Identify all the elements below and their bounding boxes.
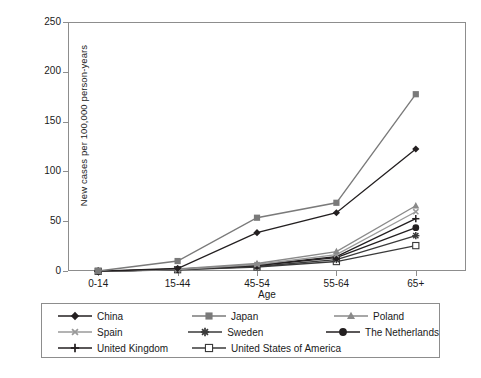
legend-symbol <box>324 325 362 339</box>
x-tick-line <box>98 271 99 276</box>
y-tick-label: 50 <box>21 215 61 226</box>
legend-marker-circle-filled <box>324 325 362 339</box>
x-tick-label: 15-44 <box>144 278 212 289</box>
legend-label: United Kingdom <box>94 343 168 354</box>
legend-marker-square-open <box>190 341 228 355</box>
legend-symbol <box>190 341 228 355</box>
legend-symbol <box>190 309 228 323</box>
legend-symbol <box>332 309 370 323</box>
marker-square-open <box>205 344 212 351</box>
y-tick-label: 150 <box>21 115 61 126</box>
legend-label: The Netherlands <box>362 327 439 338</box>
marker-square-filled <box>205 312 212 319</box>
legend-marker-x-cross <box>56 325 94 339</box>
legend-item-united-states-of-america[interactable]: United States of America <box>190 340 332 356</box>
legend-label: United States of America <box>228 343 341 354</box>
legend-marker-diamond-filled <box>56 309 94 323</box>
y-tick-label: 200 <box>21 65 61 76</box>
y-tick-line <box>63 72 68 73</box>
marker-diamond-filled <box>71 312 79 320</box>
legend-symbol <box>56 341 94 355</box>
legend-marker-plus-cross <box>56 341 94 355</box>
marker-plus-cross <box>71 344 79 352</box>
x-tick-label: 55-64 <box>302 278 370 289</box>
legend-marker-asterisk <box>186 325 224 339</box>
chart-figure: New cases per 100,000 person-years 05010… <box>0 0 481 378</box>
x-tick-line <box>336 271 337 276</box>
legend-label: Spain <box>94 327 123 338</box>
legend-row: United KingdomUnited States of America <box>42 340 439 356</box>
x-tick-label: 65+ <box>382 278 450 289</box>
y-tick-line <box>63 22 68 23</box>
y-tick-label: 0 <box>21 265 61 276</box>
y-tick-line <box>63 122 68 123</box>
legend-item-poland[interactable]: Poland <box>332 308 404 324</box>
x-axis-title: Age <box>68 289 466 300</box>
legend-row: SpainSwedenThe Netherlands <box>42 324 439 340</box>
legend-symbol <box>56 325 94 339</box>
marker-asterisk <box>201 328 209 336</box>
legend-marker-square-filled <box>190 309 228 323</box>
legend-label: China <box>94 311 123 322</box>
legend-symbol <box>56 309 94 323</box>
y-tick-label: 250 <box>21 16 61 27</box>
x-tick-line <box>416 271 417 276</box>
y-tick-line <box>63 221 68 222</box>
legend-symbol <box>186 325 224 339</box>
x-tick-line <box>257 271 258 276</box>
chart-legend: ChinaJapanPolandSpainSwedenThe Netherlan… <box>41 303 440 358</box>
legend-item-spain[interactable]: Spain <box>42 324 186 340</box>
y-tick-line <box>63 171 68 172</box>
legend-item-the-netherlands[interactable]: The Netherlands <box>324 324 439 340</box>
legend-label: Poland <box>370 311 404 322</box>
legend-marker-triangle-filled <box>332 309 370 323</box>
x-tick-label: 0-14 <box>64 278 132 289</box>
legend-label: Sweden <box>224 327 263 338</box>
y-axis-title: New cases per 100,000 person-years <box>78 6 89 246</box>
y-tick-line <box>63 271 68 272</box>
legend-label: Japan <box>228 311 258 322</box>
legend-item-china[interactable]: China <box>42 308 190 324</box>
x-tick-label: 45-54 <box>223 278 291 289</box>
legend-row: ChinaJapanPoland <box>42 308 439 324</box>
y-tick-label: 100 <box>21 165 61 176</box>
plot-area <box>68 22 466 271</box>
legend-item-united-kingdom[interactable]: United Kingdom <box>42 340 190 356</box>
marker-circle-filled <box>339 328 347 336</box>
legend-item-sweden[interactable]: Sweden <box>186 324 324 340</box>
x-tick-line <box>178 271 179 276</box>
legend-item-japan[interactable]: Japan <box>190 308 332 324</box>
